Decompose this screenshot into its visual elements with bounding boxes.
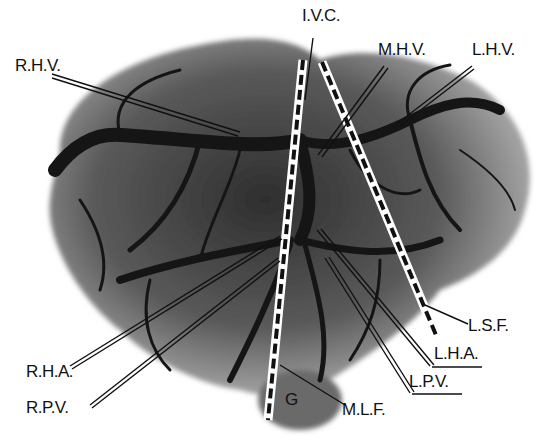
label-gallbladder: G <box>285 390 298 410</box>
liver-cast-illustration <box>0 0 547 444</box>
label-rha: R.H.A. <box>26 362 73 382</box>
label-ivc: I.V.C. <box>302 6 340 26</box>
label-lhv: L.H.V. <box>472 40 515 60</box>
label-mhv: M.H.V. <box>378 40 425 60</box>
label-mlf: M.L.F. <box>342 400 385 420</box>
label-lpv: L.P.V. <box>409 372 449 392</box>
label-lha: L.H.A. <box>434 344 478 364</box>
label-lsf: L.S.F. <box>468 316 508 336</box>
liver-vasculature-figure: I.V.C. R.H.V. M.H.V. L.H.V. L.S.F. L.H.A… <box>0 0 547 444</box>
label-rpv: R.P.V. <box>26 398 68 418</box>
label-rhv: R.H.V. <box>15 56 61 76</box>
